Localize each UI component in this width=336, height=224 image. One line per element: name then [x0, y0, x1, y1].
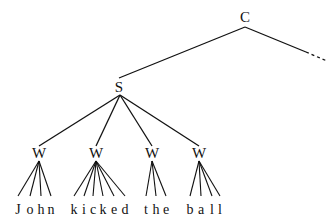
node-w-label-ball: W — [192, 145, 207, 161]
edge-w-to-letter-kicked-4 — [96, 161, 114, 196]
letter-kicked-2: c — [90, 202, 96, 217]
edge-w-to-letter-kicked-3 — [96, 161, 103, 196]
letter-the-0: t — [144, 202, 148, 217]
letter-the-1: h — [153, 202, 160, 217]
letter-john-3: n — [48, 202, 55, 217]
edge-c-to-sibling — [245, 27, 306, 52]
edge-c-continuation-dashed — [306, 52, 327, 61]
edge-c-to-s — [119, 27, 245, 78]
tree-labels: CSWJohnWkickedWtheWball — [15, 9, 250, 217]
edge-w-to-letter-kicked-0 — [74, 161, 96, 196]
letter-kicked-0: k — [71, 202, 78, 217]
node-c-label: C — [240, 9, 250, 25]
syntax-tree-diagram: CSWJohnWkickedWtheWball — [0, 0, 336, 224]
node-w-label-john: W — [32, 145, 47, 161]
letter-ball-1: a — [198, 202, 205, 217]
edge-w-to-letter-john-1 — [30, 161, 39, 196]
edge-w-to-letter-john-0 — [18, 161, 39, 196]
letter-ball-2: l — [210, 202, 214, 217]
letter-kicked-5: d — [122, 202, 129, 217]
letter-john-1: o — [27, 202, 34, 217]
node-w-label-the: W — [145, 145, 160, 161]
letter-ball-0: b — [187, 202, 194, 217]
letter-kicked-4: e — [111, 202, 117, 217]
edge-w-to-letter-ball-0 — [190, 161, 199, 196]
node-w-label-kicked: W — [89, 145, 104, 161]
letter-kicked-1: i — [82, 202, 86, 217]
edge-s-to-w-the — [120, 95, 152, 146]
node-s-label: S — [115, 79, 123, 95]
edge-s-to-w-ball — [120, 95, 199, 146]
edge-w-to-letter-the-0 — [146, 161, 152, 196]
letter-john-2: h — [38, 202, 45, 217]
edge-w-to-letter-kicked-5 — [96, 161, 125, 196]
letter-the-2: e — [163, 202, 169, 217]
tree-edges — [18, 27, 327, 196]
letter-john-0: J — [15, 202, 21, 217]
letter-kicked-3: k — [100, 202, 107, 217]
letter-ball-3: l — [218, 202, 222, 217]
